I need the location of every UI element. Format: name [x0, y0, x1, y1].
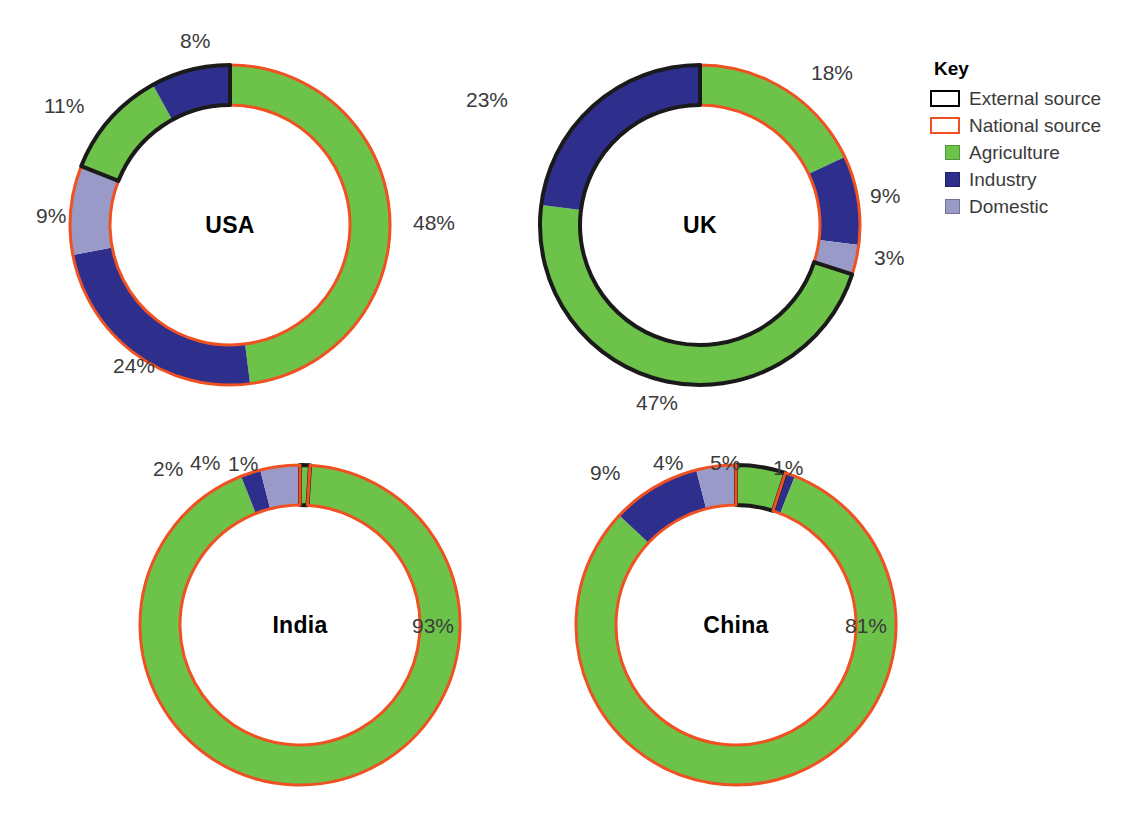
pct-label-india-93: 93%	[412, 615, 454, 636]
pct-label-uk-3: 3%	[874, 247, 904, 268]
legend-item-domestic[interactable]: Domestic	[930, 195, 1120, 218]
pct-label-uk-9: 9%	[870, 185, 900, 206]
legend-title: Key	[934, 58, 1120, 80]
chart-panel-usa: USA 48% 24% 9% 11% 8%	[0, 0, 470, 420]
pct-label-uk-47: 47%	[636, 392, 678, 413]
donut-uk-svg	[532, 57, 868, 393]
legend-label-industry: Industry	[969, 170, 1037, 189]
donut-segment-uk-47	[540, 205, 852, 385]
outline-black-icon	[930, 90, 960, 107]
pct-label-uk-18: 18%	[811, 62, 853, 83]
legend-label-external-source: External source	[969, 89, 1101, 108]
green-square-icon	[945, 145, 960, 160]
legend-label-national-source: National source	[969, 116, 1101, 135]
outline-orange-icon	[930, 117, 960, 134]
pct-label-usa-24: 24%	[113, 355, 155, 376]
legend: Key External source National source Agri…	[930, 58, 1120, 222]
donut-usa: USA	[62, 57, 398, 393]
pct-label-usa-11: 11%	[44, 95, 84, 116]
pct-label-uk-23: 23%	[466, 89, 508, 110]
legend-item-industry[interactable]: Industry	[930, 168, 1120, 191]
pct-label-china-5: 5%	[710, 452, 740, 473]
pct-label-china-81: 81%	[845, 615, 887, 636]
legend-label-domestic: Domestic	[969, 197, 1048, 216]
pct-label-india-4: 4%	[190, 452, 220, 473]
pct-label-usa-9: 9%	[36, 205, 66, 226]
pct-label-china-9: 9%	[590, 462, 620, 483]
chart-panel-uk: UK 18% 9% 3% 47% 23%	[470, 0, 930, 420]
legend-item-national-source[interactable]: National source	[930, 114, 1120, 137]
donut-uk: UK	[532, 57, 868, 393]
legend-item-external-source[interactable]: External source	[930, 87, 1120, 110]
legend-label-agriculture: Agriculture	[969, 143, 1060, 162]
pct-label-india-2: 2%	[153, 458, 183, 479]
pct-label-china-1: 1%	[773, 457, 803, 478]
chart-panel-india: India 1% 93% 2% 4%	[0, 420, 470, 830]
pct-label-usa-8: 8%	[180, 30, 210, 51]
lavender-square-icon	[945, 199, 960, 214]
pct-label-india-1: 1%	[228, 453, 258, 474]
chart-panel-china: China 5% 1% 81% 9% 4%	[470, 420, 930, 830]
pct-label-usa-48: 48%	[413, 212, 455, 233]
donut-chart-figure: USA 48% 24% 9% 11% 8% UK 18% 9% 3% 47% 2…	[0, 0, 1124, 830]
navy-square-icon	[945, 172, 960, 187]
legend-item-agriculture[interactable]: Agriculture	[930, 141, 1120, 164]
pct-label-china-4: 4%	[653, 452, 683, 473]
donut-usa-svg	[62, 57, 398, 393]
donut-segment-usa-48	[230, 65, 390, 384]
